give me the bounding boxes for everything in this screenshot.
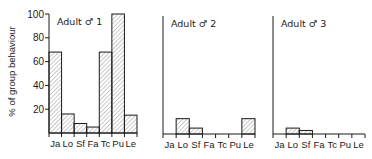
x-tick-label: Lo — [177, 139, 188, 150]
x-tick-label: Ja — [165, 139, 176, 150]
bar-Le — [124, 115, 137, 133]
panel-title: Adult ♂ 3 — [281, 18, 326, 29]
bar-Lo — [62, 114, 75, 133]
x-tick-label: Le — [243, 139, 254, 150]
y-tick-label: 60 — [33, 56, 45, 67]
x-tick-label: Ja — [275, 139, 286, 150]
bar-Ja — [49, 52, 62, 133]
chart-panel-2: JaLoSfFaTcPuLeAdult ♂ 2 — [163, 16, 255, 150]
bar-Lo — [286, 128, 299, 134]
x-tick-label: Lo — [63, 138, 74, 149]
x-tick-label: Fa — [87, 138, 99, 149]
x-tick-label: Pu — [112, 138, 124, 149]
chart-panel-3: JaLoSfFaTcPuLeAdult ♂ 3 — [273, 16, 365, 150]
chart-panel-1: 20406080100JaLoSfFaTcPuLeAdult ♂ 1 — [27, 9, 137, 150]
bar-Lo — [176, 119, 189, 134]
bar-Fa — [87, 127, 100, 133]
bar-Tc — [99, 52, 112, 133]
bar-Sf — [299, 130, 312, 134]
x-tick-label: Fa — [313, 139, 325, 150]
bar-Sf — [74, 123, 87, 133]
y-tick-label: 20 — [33, 104, 45, 115]
panel-title: Adult ♂ 2 — [171, 18, 216, 29]
bar-Le — [242, 119, 255, 134]
y-tick-label: 100 — [27, 9, 44, 20]
x-tick-label: Tc — [217, 139, 227, 150]
bar-Pu — [112, 14, 125, 133]
y-tick-label: 80 — [33, 32, 45, 43]
chart-canvas: 20406080100JaLoSfFaTcPuLeAdult ♂ 1JaLoSf… — [0, 0, 372, 159]
x-tick-label: Fa — [203, 139, 215, 150]
bar-Sf — [189, 128, 202, 134]
x-tick-label: Le — [353, 139, 364, 150]
x-tick-label: Sf — [76, 138, 85, 149]
y-tick-label: 40 — [33, 80, 45, 91]
x-tick-label: Le — [125, 138, 136, 149]
x-tick-label: Pu — [339, 139, 351, 150]
panel-title: Adult ♂ 1 — [57, 16, 102, 27]
x-tick-label: Sf — [301, 139, 310, 150]
x-tick-label: Lo — [287, 139, 298, 150]
x-tick-label: Ja — [50, 138, 61, 149]
x-tick-label: Pu — [229, 139, 241, 150]
x-tick-label: Tc — [101, 138, 111, 149]
x-tick-label: Sf — [191, 139, 200, 150]
x-tick-label: Tc — [327, 139, 337, 150]
